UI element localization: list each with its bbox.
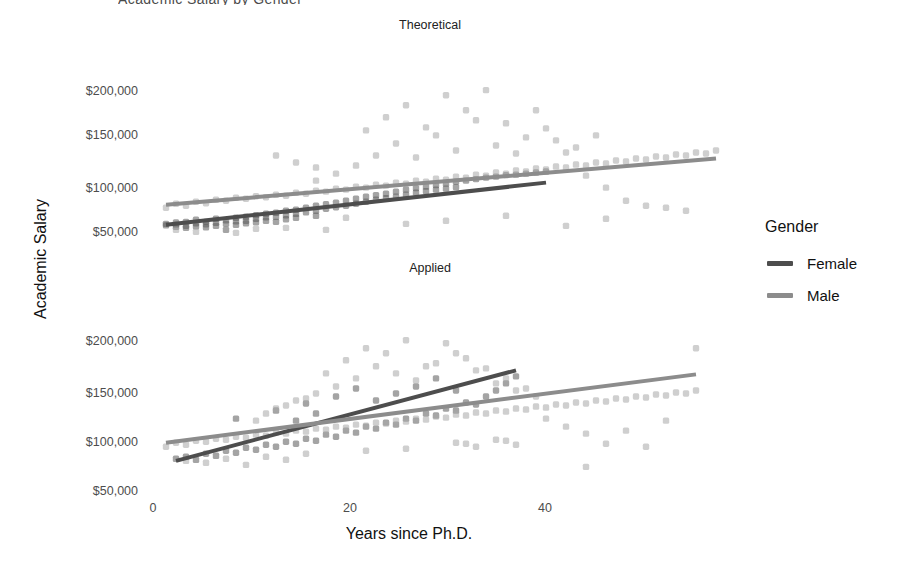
regression-line-male <box>166 374 696 442</box>
y-tick-label-top-50000: $50,000 <box>46 225 138 239</box>
scatter-svg-theoretical <box>146 60 726 256</box>
x-tick-label-0: 0 <box>133 501 173 515</box>
line-swatch-icon-male <box>765 286 795 304</box>
line-swatch-icon-female <box>765 254 795 272</box>
x-tick-label-40: 40 <box>525 501 565 515</box>
plot-panel-theoretical <box>146 60 726 256</box>
legend-label-male: Male <box>807 287 840 304</box>
legend-label-female: Female <box>807 255 857 272</box>
y-tick-label-bottom-100000: $100,000 <box>46 435 138 449</box>
page-title-clipped: Academic Salary by Gender <box>118 0 438 5</box>
chart-root: Academic Salary by Gender Theoretical Ap… <box>0 0 898 566</box>
y-tick-label-bottom-150000: $150,000 <box>46 386 138 400</box>
x-axis-title: Years since Ph.D. <box>153 525 665 543</box>
y-tick-label-top-200000: $200,000 <box>46 84 138 98</box>
regression-line-male <box>166 159 716 205</box>
y-tick-label-top-100000: $100,000 <box>46 181 138 195</box>
legend-title: Gender <box>765 218 890 236</box>
y-tick-label-bottom-50000: $50,000 <box>46 484 138 498</box>
legend-item-female[interactable]: Female <box>765 250 890 276</box>
y-tick-label-top-150000: $150,000 <box>46 128 138 142</box>
facet-strip-theoretical: Theoretical <box>320 18 540 32</box>
plot-panel-applied <box>146 303 726 499</box>
legend-item-male[interactable]: Male <box>765 282 890 308</box>
y-tick-label-bottom-200000: $200,000 <box>46 334 138 348</box>
x-tick-label-20: 20 <box>330 501 370 515</box>
scatter-svg-applied <box>146 303 726 499</box>
facet-strip-applied: Applied <box>320 261 540 275</box>
legend: Gender Female Male <box>765 218 890 314</box>
